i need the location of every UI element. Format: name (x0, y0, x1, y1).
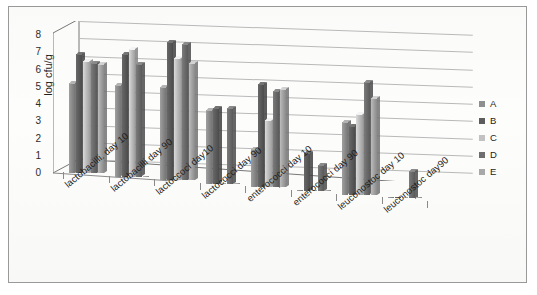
legend-swatch-d-icon (479, 152, 485, 158)
bar-c-cat0 (83, 61, 89, 173)
bar-e-cat1 (143, 176, 149, 177)
bar-b-cat4 (258, 84, 264, 188)
legend-item-c[interactable]: C (479, 129, 525, 146)
bar-b-cat1 (122, 54, 128, 176)
figure-frame: log cfu/g 876543210 lactobacilli. day 10… (8, 6, 527, 283)
legend-swatch-a-icon (479, 101, 485, 107)
y-axis-tick-7: 7 (25, 47, 41, 57)
y-axis-tick-6: 6 (25, 65, 41, 75)
bar-a-cat0 (69, 83, 75, 173)
legend-item-d[interactable]: D (479, 146, 525, 163)
category-tick-8 (427, 201, 428, 208)
legend-label: D (490, 149, 497, 160)
category-tick-0 (63, 172, 64, 179)
legend-label: B (490, 115, 496, 126)
gridline-7 (79, 38, 473, 53)
bar-a-cat1 (115, 85, 121, 176)
y-axis-tick-5: 5 (25, 82, 41, 92)
plot-area (53, 21, 473, 181)
bar-b-cat3 (213, 108, 219, 184)
bar-face (143, 176, 149, 177)
category-tick-7 (382, 197, 383, 204)
y-axis-tick-1: 1 (25, 151, 41, 161)
bar-face (325, 190, 331, 191)
legend-label: A (490, 98, 496, 109)
category-tick-6 (336, 194, 337, 201)
y-axis-tick-3: 3 (25, 116, 41, 126)
legend-swatch-b-icon (479, 118, 485, 124)
gridline-8 (79, 21, 473, 36)
bar-e-cat5 (325, 190, 331, 191)
bar-e-cat3 (234, 183, 240, 184)
y-axis-tick-labels: 876543210 (23, 21, 41, 183)
bar-a-cat2 (160, 87, 166, 180)
y-axis-tick-2: 2 (25, 134, 41, 144)
bar-e-cat7 (416, 197, 422, 198)
y-axis-tick-4: 4 (25, 99, 41, 109)
legend-item-e[interactable]: E (479, 163, 525, 180)
legend-swatch-c-icon (479, 135, 485, 141)
bar-face (83, 61, 89, 173)
legend-item-b[interactable]: B (479, 112, 525, 129)
bar-face (174, 58, 180, 180)
legend-swatch-e-icon (479, 169, 485, 175)
bar-b-cat0 (76, 54, 82, 173)
bar-c-cat2 (174, 58, 180, 180)
y-axis-tick-8: 8 (25, 30, 41, 40)
bar-c-cat1 (129, 49, 135, 177)
bar-b-cat2 (167, 42, 173, 180)
bar-face (213, 108, 219, 184)
y-axis-tick-0: 0 (25, 168, 41, 178)
legend-label: E (490, 166, 496, 177)
bar-face (122, 54, 128, 176)
category-tick-1 (109, 176, 110, 183)
legend-label: C (490, 132, 497, 143)
bar-face (115, 85, 121, 176)
legend: ABCDE (479, 95, 525, 180)
bar-face (234, 183, 240, 184)
category-tick-5 (291, 190, 292, 197)
category-tick-2 (154, 179, 155, 186)
bar-face (416, 197, 422, 198)
category-tick-3 (200, 183, 201, 190)
legend-item-a[interactable]: A (479, 95, 525, 112)
